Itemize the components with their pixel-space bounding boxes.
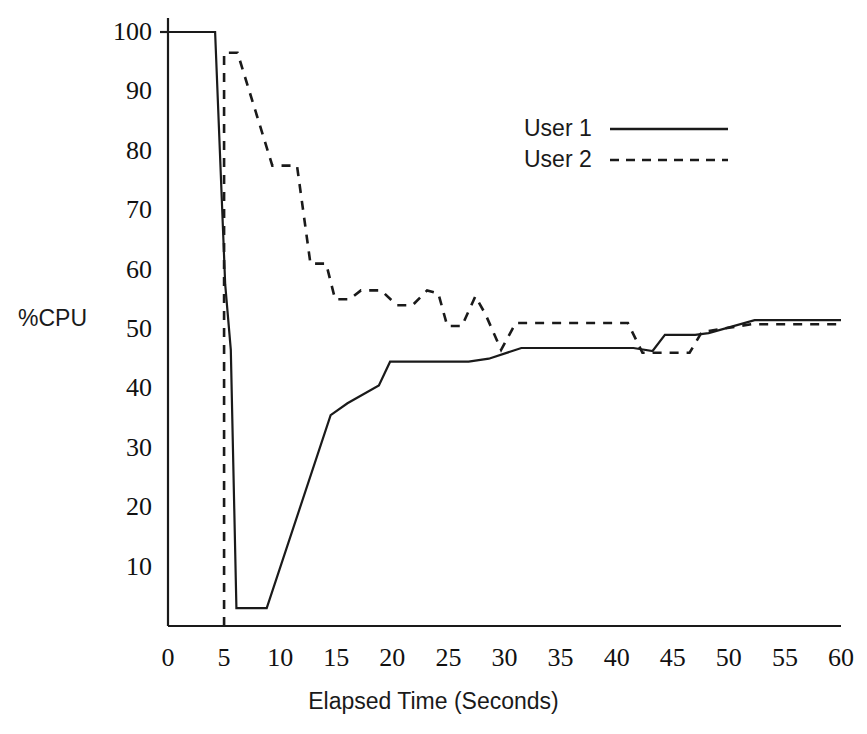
x-tick-label-0: 0	[162, 645, 175, 671]
y-tick-label-60: 60	[80, 257, 152, 283]
x-tick-label-45: 45	[660, 645, 686, 671]
y-tick-label-40: 40	[80, 375, 152, 401]
x-tick-label-25: 25	[435, 645, 461, 671]
x-tick-label-30: 30	[492, 645, 518, 671]
y-tick-label-20: 20	[80, 494, 152, 520]
legend-item-user-2: User 2	[524, 144, 728, 175]
y-tick-label-70: 70	[80, 197, 152, 223]
y-tick-label-10: 10	[80, 554, 152, 580]
x-tick-label-35: 35	[548, 645, 574, 671]
legend-label-user-2: User 2	[524, 146, 606, 173]
x-axis-title: Elapsed Time (Seconds)	[0, 688, 867, 715]
legend-swatch-dashed-line	[610, 154, 728, 166]
y-axis-title: %CPU	[18, 305, 87, 332]
plot-area	[0, 0, 867, 734]
x-tick-label-20: 20	[379, 645, 405, 671]
x-tick-label-40: 40	[604, 645, 630, 671]
x-tick-label-10: 10	[267, 645, 293, 671]
y-tick-label-100: 100	[80, 19, 152, 45]
x-tick-label-5: 5	[218, 645, 231, 671]
x-tick-label-55: 55	[772, 645, 798, 671]
chart-legend: User 1 User 2	[524, 113, 728, 175]
legend-label-user-1: User 1	[524, 115, 606, 142]
cpu-usage-line-chart: 102030405060708090100 051015202530354045…	[0, 0, 867, 734]
data-series-group	[168, 32, 841, 626]
axes	[160, 18, 841, 626]
x-tick-label-60: 60	[828, 645, 854, 671]
x-tick-label-15: 15	[323, 645, 349, 671]
y-tick-label-80: 80	[80, 138, 152, 164]
y-tick-label-30: 30	[80, 435, 152, 461]
y-tick-label-90: 90	[80, 78, 152, 104]
x-tick-label-50: 50	[716, 645, 742, 671]
y-tick-label-50: 50	[80, 316, 152, 342]
legend-item-user-1: User 1	[524, 113, 728, 144]
series-line-user-1	[168, 32, 841, 608]
legend-swatch-solid-line	[610, 123, 728, 135]
